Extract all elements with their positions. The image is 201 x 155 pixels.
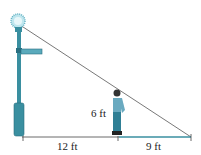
light-ray-line [20, 25, 191, 137]
lamp-post [11, 14, 42, 136]
shadow-length-label: 9 ft [146, 140, 161, 152]
distance-to-pole-label: 12 ft [57, 140, 77, 152]
man-figure [112, 90, 125, 136]
diagram-canvas [0, 0, 201, 155]
man-height-label: 6 ft [91, 107, 106, 119]
